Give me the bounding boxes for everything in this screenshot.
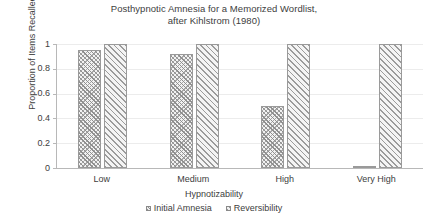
legend-entry-initial-amnesia[interactable]: Initial Amnesia — [146, 203, 212, 213]
y-tick-mark — [53, 168, 56, 169]
legend-entry-reversibility[interactable]: Reversibility — [226, 203, 283, 213]
y-tick-mark — [53, 118, 56, 119]
y-tick-label: 1 — [6, 40, 50, 49]
y-tick-label: 0.6 — [6, 89, 50, 98]
y-tick-mark — [53, 69, 56, 70]
legend-swatch-icon — [226, 206, 231, 211]
bar-medium-reversibility — [196, 44, 219, 168]
bar-very-high-initial-amnesia — [353, 166, 376, 168]
y-tick-mark — [53, 94, 56, 95]
x-axis-label: Hypnotizability — [0, 189, 428, 199]
legend-label: Reversibility — [234, 203, 283, 213]
legend-label: Initial Amnesia — [154, 203, 212, 213]
bar-very-high-reversibility — [379, 44, 402, 168]
bar-low-reversibility — [104, 44, 127, 168]
y-tick-label: 0.4 — [6, 114, 50, 123]
x-tick-label-low: Low — [62, 174, 142, 184]
bar-high-initial-amnesia — [261, 106, 284, 168]
x-tick-label-medium: Medium — [153, 174, 233, 184]
bars-layer — [57, 44, 423, 168]
bar-high-reversibility — [287, 44, 310, 168]
y-tick-label: 0.8 — [6, 64, 50, 73]
chart-title: Posthypnotic Amnesia for a Memorized Wor… — [0, 3, 428, 26]
chart-title-line-1: Posthypnotic Amnesia for a Memorized Wor… — [111, 3, 317, 14]
y-tick-label: 0 — [6, 164, 50, 173]
bar-medium-initial-amnesia — [170, 54, 193, 168]
x-tick-label-high: High — [245, 174, 325, 184]
x-tick-label-very-high: Very High — [336, 174, 416, 184]
y-tick-label: 0.2 — [6, 139, 50, 148]
chart-legend: Initial AmnesiaReversibility — [0, 203, 428, 213]
y-tick-mark — [53, 44, 56, 45]
chart-title-line-2: after Kihlstrom (1980) — [0, 15, 428, 27]
plot-area — [56, 44, 423, 169]
chart-container: Posthypnotic Amnesia for a Memorized Wor… — [0, 0, 428, 223]
bar-low-initial-amnesia — [78, 50, 101, 168]
y-tick-mark — [53, 143, 56, 144]
legend-swatch-icon — [146, 206, 151, 211]
